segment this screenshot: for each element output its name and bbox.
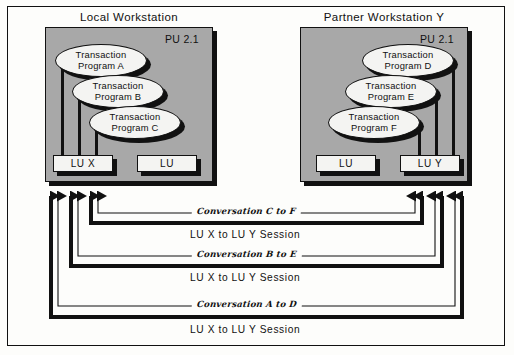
label-conversation-a-d: Conversation A to D: [191, 299, 302, 309]
local-lu-box: LU: [137, 155, 197, 172]
transaction-program-c: Transaction Program C: [89, 106, 181, 139]
program-e-line1: Transaction: [366, 81, 417, 92]
label-conversation-c-f: Conversation C to F: [191, 206, 301, 216]
program-c-line1: Transaction: [110, 112, 161, 123]
program-e-line2: Program E: [368, 92, 415, 103]
program-d-line1: Transaction: [383, 50, 434, 61]
transaction-program-b: Transaction Program B: [72, 75, 164, 108]
connector-program-a-to-lux: [61, 62, 64, 156]
program-d-line2: Program D: [384, 61, 431, 72]
connector-program-d-to-luy: [452, 62, 455, 156]
partner-lu-box: LU: [316, 155, 376, 172]
program-f-line2: Program F: [351, 123, 397, 134]
diagram-canvas: Local Workstation PU 2.1 Transaction Pro…: [0, 0, 514, 355]
conversation-path-b-e: [78, 196, 435, 256]
program-a-line2: Program A: [78, 61, 124, 72]
lu-x-box: LU X: [53, 155, 113, 172]
label-session-3: LU X to LU Y Session: [185, 324, 305, 335]
label-session-2: LU X to LU Y Session: [185, 272, 305, 283]
program-b-line1: Transaction: [93, 81, 144, 92]
transaction-program-d: Transaction Program D: [362, 44, 454, 77]
transaction-program-f: Transaction Program F: [328, 106, 420, 139]
program-b-line2: Program B: [95, 92, 142, 103]
transaction-program-e: Transaction Program E: [345, 75, 437, 108]
lu-y-box: LU Y: [400, 155, 460, 172]
program-f-line1: Transaction: [349, 112, 400, 123]
program-a-line1: Transaction: [76, 50, 127, 61]
transaction-program-a: Transaction Program A: [55, 44, 147, 77]
label-conversation-b-e: Conversation B to E: [191, 249, 302, 259]
label-session-1: LU X to LU Y Session: [185, 229, 305, 240]
program-c-line2: Program C: [111, 123, 158, 134]
